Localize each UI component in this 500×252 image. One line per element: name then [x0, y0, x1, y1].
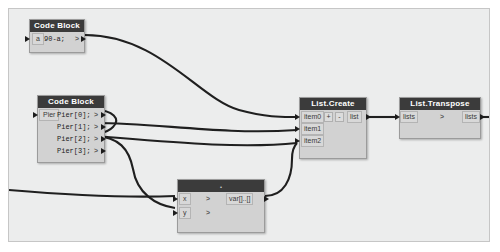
code-line-pier-3[interactable]: Pier[3];	[57, 145, 91, 157]
input-port-item1[interactable]	[295, 126, 300, 132]
code-line-pier-2[interactable]: Pier[2];	[57, 133, 91, 145]
input-port-item0[interactable]	[295, 114, 300, 120]
lacing-chevron-icon[interactable]: >	[440, 111, 444, 123]
code-line-pier-0[interactable]: Pier[0];	[57, 109, 91, 121]
wire-math-to-item2	[265, 143, 297, 196]
lacing-chevron-x-icon[interactable]: >	[206, 193, 210, 205]
output-label-lists: lists	[462, 111, 480, 123]
remove-item-button[interactable]: -	[335, 112, 344, 122]
output-port-var[interactable]	[264, 196, 269, 202]
output-port-code-block-top[interactable]	[81, 36, 86, 42]
input-label-item0: item0	[301, 111, 324, 123]
input-port-pier[interactable]	[33, 112, 38, 118]
wire-left-edge-to-x	[9, 190, 175, 197]
node-code-block-pier[interactable]: Code Block Pier Pier[0]; > Pier[1]; > Pi…	[37, 95, 105, 163]
node-list-create[interactable]: List.Create item0 + - list item1 item2	[299, 97, 367, 159]
output-chevron-pier-0[interactable]: >	[94, 109, 98, 121]
output-port-pier-2[interactable]	[101, 136, 106, 142]
output-label-var: var[]..[]	[226, 193, 253, 205]
node-math[interactable]: . x > var[]..[] y >	[177, 179, 265, 233]
input-port-x[interactable]	[173, 196, 178, 202]
output-port-pier-3[interactable]	[101, 148, 106, 154]
output-port-pier-0[interactable]	[101, 112, 106, 118]
input-label-y: y	[179, 207, 191, 219]
node-title-list-transpose: List.Transpose	[400, 98, 480, 110]
input-label-item2: item2	[301, 135, 324, 147]
add-item-button[interactable]: +	[324, 112, 333, 122]
output-chevron-pier-2[interactable]: >	[94, 133, 98, 145]
code-line-pier-1[interactable]: Pier[1];	[57, 121, 91, 133]
wire-pier1-to-item1	[95, 123, 297, 131]
input-port-a[interactable]	[25, 36, 30, 42]
node-title-list-create: List.Create	[300, 98, 366, 110]
code-line-0[interactable]: 90-a;	[44, 33, 65, 45]
node-graph-canvas[interactable]: Code Block a 90-a; > Code Block Pier Pie…	[8, 8, 490, 242]
input-port-y[interactable]	[173, 210, 178, 216]
output-chevron-pier-1[interactable]: >	[94, 121, 98, 133]
wire-codeblock-top-to-item0	[85, 35, 297, 117]
output-label-list: list	[347, 111, 362, 123]
node-list-transpose[interactable]: List.Transpose lists > lists	[399, 97, 481, 139]
wire-pier2-to-item2	[95, 136, 297, 145]
input-label-lists: lists	[400, 111, 418, 123]
input-port-item2[interactable]	[295, 138, 300, 144]
input-label-a: a	[32, 33, 44, 45]
node-title-math: .	[178, 180, 264, 192]
node-title-code-block-top: Code Block	[30, 20, 84, 32]
output-port-list[interactable]	[366, 114, 371, 120]
output-port-pier-1[interactable]	[101, 124, 106, 130]
input-label-x: x	[179, 193, 191, 205]
input-label-item1: item1	[301, 123, 324, 135]
node-title-code-block-pier: Code Block	[38, 96, 104, 108]
output-chevron-pier-3[interactable]: >	[94, 145, 98, 157]
lacing-chevron-y-icon[interactable]: >	[206, 207, 210, 219]
output-chevron-code-block-top[interactable]: >	[75, 33, 79, 45]
node-code-block-top[interactable]: Code Block a 90-a; >	[29, 19, 85, 53]
output-port-lists[interactable]	[480, 114, 485, 120]
